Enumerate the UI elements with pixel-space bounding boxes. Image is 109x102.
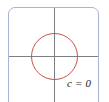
curve-label: c = 0 <box>67 77 91 89</box>
level-curve-circle <box>31 33 78 80</box>
level-curve-figure: c = 0 <box>0 0 109 102</box>
